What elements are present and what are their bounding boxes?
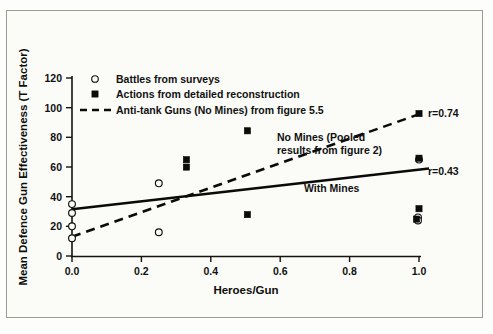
x-tick-label: 0.4: [203, 265, 218, 277]
legend-marker-open-circle: [92, 76, 99, 83]
scatter-plot: 120 100 80 60 40 20 0 0.0 0.2 0.4 0.6 0.…: [0, 0, 493, 334]
figure-container: 120 100 80 60 40 20 0 0.0 0.2 0.4 0.6 0.…: [0, 0, 493, 334]
legend-label-actions: Actions from detailed reconstruction: [116, 88, 300, 100]
chart-legend: Battles from surveys Actions from detail…: [80, 73, 324, 116]
series-actions-from-reconstruction: [183, 111, 422, 223]
y-tick-label: 120: [44, 72, 62, 84]
x-axis-tick-labels: 0.0 0.2 0.4 0.6 0.8 1.0: [65, 265, 427, 277]
y-tick-label: 20: [50, 220, 62, 232]
data-point-open-circle: [69, 235, 76, 242]
y-tick-label: 0: [56, 250, 62, 262]
data-point-filled-square: [413, 216, 419, 222]
data-point-filled-square: [416, 206, 422, 212]
data-point-open-circle: [69, 223, 76, 230]
series-battles-from-surveys: [69, 156, 423, 241]
data-point-open-circle: [69, 201, 76, 208]
x-tick-label: 0.2: [134, 265, 149, 277]
data-point-open-circle: [155, 229, 162, 236]
y-tick-label: 80: [50, 131, 62, 143]
x-tick-label: 0.0: [65, 265, 80, 277]
annotation-no-mines-line1: No Mines (Pooled: [277, 131, 365, 143]
data-point-filled-square: [183, 164, 189, 170]
annotation-no-mines-line2: results from figure 2): [277, 144, 382, 156]
x-tick-label: 1.0: [412, 265, 427, 277]
chart-annotations: r=0.74 r=0.43 No Mines (Pooled results f…: [277, 107, 459, 194]
y-tick-label: 40: [50, 191, 62, 203]
x-tick-label: 0.8: [342, 265, 357, 277]
annotation-r-074: r=0.74: [428, 107, 459, 119]
data-point-open-circle: [69, 210, 76, 217]
y-axis-label: Mean Defence Gun Effectiveness (T Factor…: [17, 48, 29, 285]
data-point-filled-square: [416, 155, 422, 161]
data-point-filled-square: [183, 157, 189, 163]
data-point-filled-square: [244, 128, 250, 134]
annotation-r-043: r=0.43: [428, 165, 459, 177]
data-point-filled-square: [416, 111, 422, 117]
data-point-filled-square: [244, 212, 250, 218]
legend-marker-filled-square: [92, 91, 98, 97]
y-tick-label: 60: [50, 161, 62, 173]
y-axis-tick-labels: 120 100 80 60 40 20 0: [44, 72, 62, 262]
x-axis-label: Heroes/Gun: [213, 284, 278, 296]
legend-label-battles: Battles from surveys: [116, 73, 220, 85]
y-tick-label: 100: [44, 102, 62, 114]
data-point-open-circle: [155, 180, 162, 187]
legend-label-antitank: Anti-tank Guns (No Mines) from figure 5.…: [116, 104, 324, 116]
annotation-with-mines: With Mines: [304, 182, 359, 194]
x-tick-label: 0.6: [273, 265, 288, 277]
